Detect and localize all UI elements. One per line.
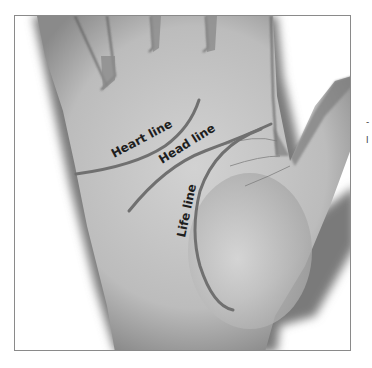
palm-figure-frame: Heart line Head line Life line <box>14 15 351 351</box>
palm-illustration: Heart line Head line Life line <box>15 16 351 351</box>
edge-text-fragment-bottom: l <box>366 136 369 145</box>
thumb-mound <box>188 173 312 329</box>
edge-text-fragment-top: - <box>366 118 369 127</box>
